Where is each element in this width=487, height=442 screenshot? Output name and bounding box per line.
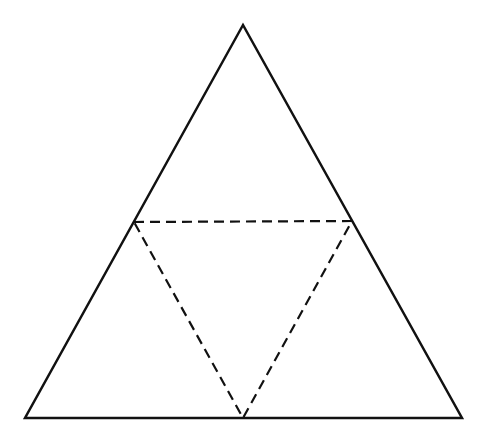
tetrahedron-net-diagram — [0, 0, 487, 442]
background — [0, 0, 487, 442]
